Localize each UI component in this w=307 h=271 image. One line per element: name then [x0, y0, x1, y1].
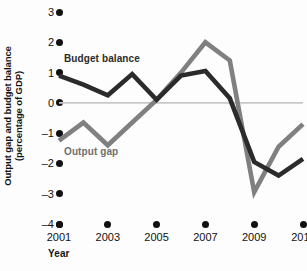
series-line-budget-balance	[59, 71, 303, 175]
x-tick-dot-icon	[202, 221, 209, 228]
x-tick-label: 2005	[137, 231, 177, 243]
x-tick-label: 2001	[39, 231, 79, 243]
x-tick-dot-icon	[251, 221, 258, 228]
x-tick-label: 2011	[283, 231, 307, 243]
x-tick-label: 2009	[234, 231, 274, 243]
x-tick-dot-icon	[300, 221, 307, 228]
x-axis-title: Year	[48, 248, 70, 259]
x-tick-dot-icon	[56, 221, 63, 228]
series-label-budget-balance: Budget balance	[64, 53, 140, 64]
x-tick-label: 2007	[185, 231, 225, 243]
series-label-output-gap: Output gap	[64, 146, 118, 157]
line-chart: Output gap and budget balance (percentag…	[0, 0, 307, 271]
x-tick-label: 2003	[88, 231, 128, 243]
